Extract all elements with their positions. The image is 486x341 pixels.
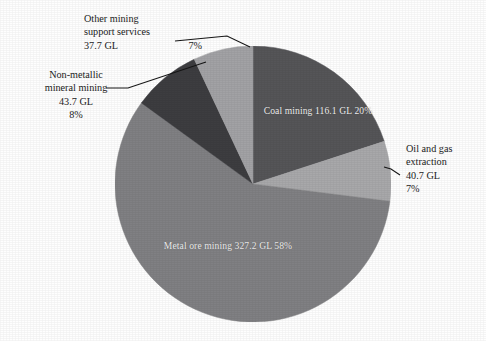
other-label-pct: 7%	[188, 39, 202, 52]
metal-label-value: 327.2 GL	[235, 240, 272, 251]
other-label-line1: Other mining	[84, 12, 202, 25]
nonmetallic-label-value: 43.7 GL	[24, 95, 128, 108]
callout-oil-and-gas-extraction: Oil and gas extraction 40.7 GL 7%	[406, 142, 452, 196]
slice-label-metal-ore-mining: Metal ore mining 327.2 GL 58%	[158, 240, 298, 252]
nonmetallic-label-pct: 8%	[24, 108, 128, 121]
nonmetallic-label-line1: Non-metallic	[24, 68, 128, 81]
other-label-value: 37.7 GL	[84, 39, 118, 52]
nonmetallic-label-line2: mineral mining	[24, 81, 128, 94]
other-label-line2: support services	[84, 25, 202, 38]
oil-label-line2: extraction	[406, 155, 452, 168]
pie-svg	[115, 46, 391, 322]
callout-other-mining-support-services: Other mining support services 37.7 GL 7%	[84, 12, 202, 52]
oil-label-pct: 7%	[406, 182, 452, 195]
callout-non-metallic-mineral-mining: Non-metallic mineral mining 43.7 GL 8%	[24, 68, 128, 122]
other-label-line3-row: 37.7 GL 7%	[84, 39, 202, 52]
pie-chart: Coal mining 116.1 GL 20% Metal ore minin…	[115, 46, 391, 322]
pie-chart-figure: Coal mining 116.1 GL 20% Metal ore minin…	[0, 0, 486, 341]
oil-label-line1: Oil and gas	[406, 142, 452, 155]
coal-label-value: 116.1 GL	[315, 105, 352, 116]
coal-label-pct: 20%	[354, 105, 372, 116]
slice-label-coal-mining: Coal mining 116.1 GL 20%	[258, 105, 378, 117]
oil-label-value: 40.7 GL	[406, 169, 452, 182]
coal-label-name: Coal mining	[264, 105, 313, 116]
metal-label-pct: 58%	[274, 240, 292, 251]
metal-label-name: Metal ore mining	[164, 240, 232, 251]
